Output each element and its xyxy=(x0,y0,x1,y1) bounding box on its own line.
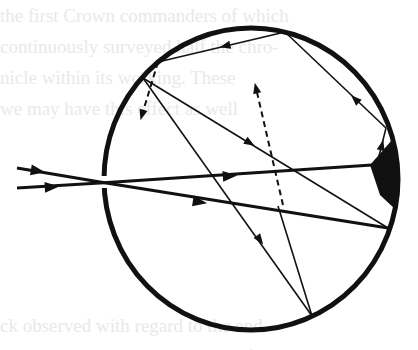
ray-upper-left-to-bottom xyxy=(143,78,312,316)
arrowhead-icon xyxy=(253,83,261,94)
arrowhead-icon xyxy=(44,182,59,193)
arrowhead-icon xyxy=(243,137,254,146)
ray-bottom-up xyxy=(278,206,312,316)
eye-ray-diagram xyxy=(0,0,418,350)
ray-retina-to-top xyxy=(285,32,386,128)
ray-upper-left-down xyxy=(143,78,388,228)
arrowhead-icon xyxy=(140,109,148,121)
arrowhead-icon xyxy=(377,140,385,151)
dashed-ray-center xyxy=(256,88,283,205)
